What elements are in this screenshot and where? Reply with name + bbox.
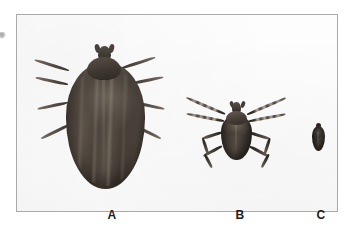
tick-b-leg-right-1	[246, 97, 286, 116]
tick-a-idiosoma	[66, 63, 145, 189]
tick-a-scutum	[87, 57, 121, 80]
tick-a-leg-left-2	[35, 76, 68, 86]
tick-b-leg-left-1	[186, 97, 226, 116]
specimen-label-b: B	[230, 209, 250, 221]
scan-artifact	[0, 32, 6, 39]
specimen-a-engorged-adult-tick	[39, 35, 169, 200]
tick-b-leg-left-2	[186, 113, 224, 123]
tick-b-leg-left-4b	[204, 154, 213, 168]
figure-root: A B C	[0, 0, 348, 226]
tick-b-leg-right-4b	[261, 154, 270, 168]
tick-b-scutum	[226, 111, 247, 125]
tick-c-idiosoma	[312, 126, 325, 151]
figure-plate: A B C	[16, 14, 338, 212]
tick-a-leg-right-1	[121, 56, 156, 70]
specimen-label-a: A	[102, 209, 122, 221]
specimen-c-nymph-tick	[309, 123, 331, 157]
tick-a-leg-left-1	[34, 59, 69, 72]
specimen-b-unfed-adult-tick	[185, 93, 289, 179]
specimen-layer: A B C	[17, 15, 337, 211]
tick-a-leg-left-3	[37, 101, 68, 110]
specimen-label-c: C	[311, 209, 331, 221]
tick-b-leg-right-2	[248, 113, 286, 123]
